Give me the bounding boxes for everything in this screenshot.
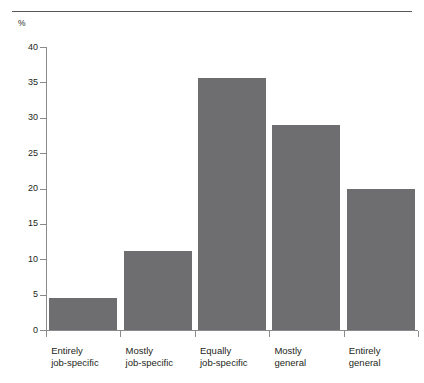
y-tick-mark [40,118,47,119]
y-tick-label: 5 [0,290,38,299]
y-tick-label-text: 30 [4,113,38,122]
x-category-label-line: general [349,357,381,369]
top-horizontal-rule [12,11,412,12]
y-tick-label-text: 5 [4,290,38,299]
y-tick-label: 0 [0,326,38,335]
bar [347,189,415,331]
y-tick-mark [40,189,47,190]
y-tick-label-text: 0 [4,326,38,335]
x-category-label: Mostlyjob-specific [126,345,174,368]
x-category-label: Entirelyjob-specific [51,345,99,368]
x-tick-mark [418,331,419,337]
y-tick-label: 35 [0,78,38,87]
x-tick-mark [269,331,270,337]
x-category-label-line: Entirely [349,345,381,357]
y-tick-label-text: 35 [4,78,38,87]
x-tick-mark-origin [46,331,47,337]
y-tick-label: 20 [0,184,38,193]
y-tick-mark [40,82,47,83]
x-tick-mark [344,331,345,337]
x-category-label-line: Entirely [51,345,99,357]
y-tick-mark [40,259,47,260]
y-tick-mark [40,295,47,296]
y-tick-label: 25 [0,149,38,158]
x-category-label-line: Equally [200,345,248,357]
y-tick-mark [40,224,47,225]
x-category-label-line: general [274,357,306,369]
bar [49,298,117,330]
x-category-label: Equallyjob-specific [200,345,248,368]
x-category-label-line: Mostly [126,345,174,357]
y-tick-label-text: 20 [4,184,38,193]
bar [272,125,340,330]
y-tick-mark [40,153,47,154]
x-category-label: Entirelygeneral [349,345,381,368]
bar [124,251,192,330]
x-tick-mark [195,331,196,337]
y-tick-label-text: 10 [4,255,38,264]
y-tick-label: 30 [0,113,38,122]
x-axis-line [46,330,418,331]
x-category-label-line: job-specific [126,357,174,369]
y-axis-unit-label: % [18,18,26,28]
x-tick-mark [120,331,121,337]
y-tick-label: 40 [0,43,38,52]
bar [198,78,266,330]
x-category-label-line: Mostly [274,345,306,357]
y-tick-label-text: 15 [4,219,38,228]
y-tick-label: 15 [0,219,38,228]
y-tick-label-text: 25 [4,149,38,158]
y-tick-label: 10 [0,255,38,264]
x-category-label-line: job-specific [200,357,248,369]
y-tick-mark [40,47,47,48]
x-category-label-line: job-specific [51,357,99,369]
bar-chart-figure: % 0510152025303540 Entirelyjob-specificM… [0,0,424,383]
x-category-label: Mostlygeneral [274,345,306,368]
y-tick-label-text: 40 [4,43,38,52]
